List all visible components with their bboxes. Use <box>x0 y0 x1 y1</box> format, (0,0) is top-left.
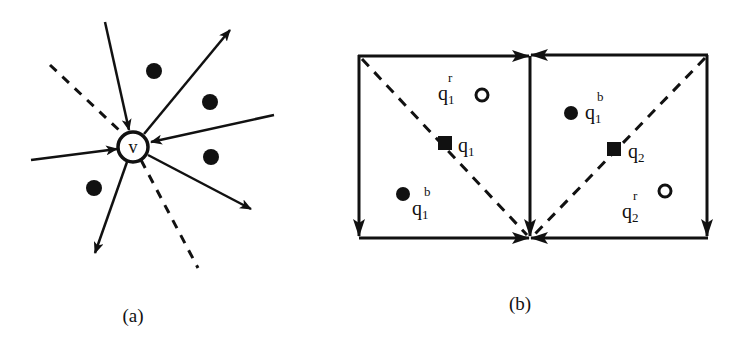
q2r-label: q2 <box>622 200 639 225</box>
edge-outgoing-lower-right <box>148 155 251 209</box>
point <box>203 149 219 165</box>
edge-outgoing-bottom <box>95 162 127 253</box>
panel-b: q1 q1 r q1 b q2 q1 b q2 r (b) <box>358 55 708 315</box>
q1r-label: q1 <box>438 82 455 107</box>
edge-incoming-left <box>31 149 117 160</box>
blue-point-q1b <box>564 106 578 120</box>
panel-a: v (a) <box>31 22 274 327</box>
edge-outgoing-upper-right <box>144 30 230 134</box>
q1b-label: q1 <box>412 197 429 222</box>
figure: v (a) <box>0 0 730 346</box>
edge-incoming-right <box>151 115 274 142</box>
q2r-sup: r <box>633 188 638 203</box>
query-point-q1 <box>438 136 452 150</box>
caption-b: (b) <box>509 293 531 315</box>
q1b-label: q1 <box>585 101 602 126</box>
edge-incoming-top <box>105 22 129 130</box>
points <box>86 63 219 196</box>
q1-label: q1 <box>458 134 475 159</box>
point <box>202 94 218 110</box>
vertex-label: v <box>129 137 138 157</box>
q1b-sup: b <box>424 184 431 199</box>
caption-a: (a) <box>122 305 143 327</box>
blue-point-q1b <box>396 187 410 201</box>
red-point-q1r <box>476 89 488 101</box>
cell-edges <box>358 55 708 238</box>
edges <box>31 22 274 253</box>
vertex-v: v <box>118 132 148 162</box>
point <box>86 180 102 196</box>
left-cell: q1 q1 r q1 b <box>396 70 488 222</box>
q2-label: q2 <box>628 140 645 165</box>
point <box>146 63 162 79</box>
red-point-q2r <box>659 185 671 197</box>
q1r-sup: r <box>448 70 453 85</box>
query-point-q2 <box>607 142 621 156</box>
q1b-sup: b <box>597 89 604 104</box>
right-cell: q2 q1 b q2 r <box>564 89 671 225</box>
